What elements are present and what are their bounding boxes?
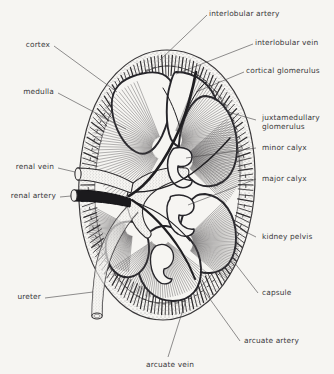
- label-arcuate-artery: arcuate artery: [244, 336, 299, 345]
- leader-arcuate-artery: [202, 288, 240, 341]
- label-major-calyx: major calyx: [262, 174, 307, 183]
- leader-cortex: [54, 46, 117, 92]
- leader-capsule: [234, 262, 258, 293]
- label-juxtamedullary-line1: juxtamedullary: [262, 113, 320, 122]
- label-arcuate-vein: arcuate vein: [130, 360, 210, 369]
- leader-ureter: [45, 292, 93, 298]
- label-cortex: cortex: [0, 40, 50, 49]
- label-ureter: ureter: [0, 292, 41, 301]
- label-capsule: capsule: [262, 288, 291, 297]
- label-medulla: medulla: [0, 87, 54, 96]
- label-juxtamedullary-line2: glomerulus: [262, 122, 305, 131]
- label-renal-artery: renal artery: [0, 191, 56, 200]
- label-interlobular-artery: interlobular artery: [209, 9, 279, 18]
- leader-renal-artery: [60, 196, 71, 197]
- kidney-illustration: [0, 0, 334, 374]
- label-interlobular-vein: interlobular vein: [255, 38, 318, 47]
- label-renal-vein: renal vein: [0, 162, 54, 171]
- leader-renal-vein: [58, 168, 75, 172]
- label-minor-calyx: minor calyx: [262, 143, 307, 152]
- kidney-diagram-page: interlobular artery interlobular vein co…: [0, 0, 334, 374]
- label-cortical-glomerulus: cortical glomerulus: [246, 66, 320, 75]
- label-kidney-pelvis: kidney pelvis: [262, 232, 313, 241]
